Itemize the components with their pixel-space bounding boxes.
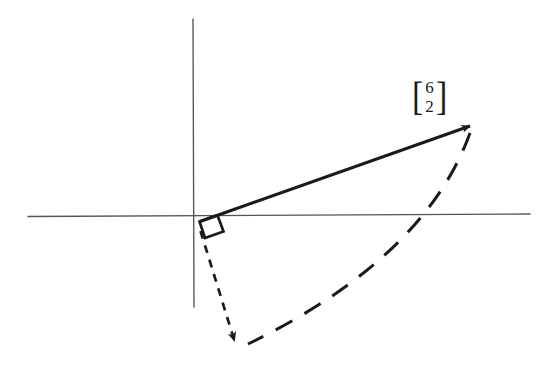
bracket-open: [: [412, 79, 423, 116]
bracket-close: ]: [436, 79, 447, 116]
vector-label: [ 6 2 ]: [411, 78, 448, 116]
canvas-background: [0, 0, 538, 366]
vector-rotation-figure: [ 6 2 ]: [0, 0, 538, 366]
vector-component-y: 2: [425, 97, 434, 116]
vector-components: 6 2: [424, 78, 435, 116]
vector-component-x: 6: [425, 78, 434, 97]
diagram-canvas: [0, 0, 538, 366]
